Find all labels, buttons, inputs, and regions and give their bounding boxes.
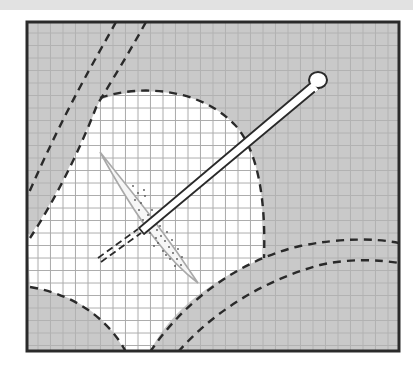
illustration bbox=[0, 0, 413, 370]
